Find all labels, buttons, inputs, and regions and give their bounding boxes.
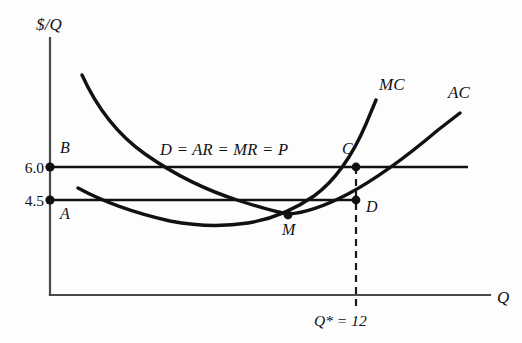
point-a-label: A	[60, 206, 70, 222]
y-tick-label-6-0: 6.0	[6, 159, 44, 177]
x-axis-label: Q	[497, 289, 509, 306]
y-tick-label-4-5: 4.5	[6, 192, 44, 210]
point-b-marker	[45, 162, 54, 171]
y-axis-label: $/Q	[36, 16, 62, 33]
point-a-marker	[45, 195, 54, 204]
point-m-marker	[284, 211, 293, 220]
mc-curve	[78, 100, 376, 225]
point-c-label: C	[342, 141, 353, 157]
chart-canvas	[0, 0, 522, 343]
ac-curve-label: AC	[448, 84, 470, 101]
q-star-label: Q* = 12	[314, 312, 367, 330]
point-c-marker	[352, 163, 361, 172]
perfect-competition-cost-chart: $/Q Q 6.0 4.5 B A C D M MC AC D = AR = M…	[0, 0, 522, 343]
point-m-label: M	[282, 222, 295, 238]
demand-line-label: D = AR = MR = P	[160, 142, 288, 159]
mc-curve-label: MC	[379, 76, 405, 93]
point-d-label: D	[366, 199, 378, 215]
point-d-marker	[352, 196, 361, 205]
point-b-label: B	[60, 140, 70, 156]
